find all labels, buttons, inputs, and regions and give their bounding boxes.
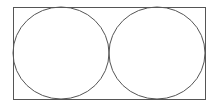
right-circle [109, 7, 205, 99]
left-circle [13, 7, 109, 99]
diagram-canvas [0, 0, 214, 105]
